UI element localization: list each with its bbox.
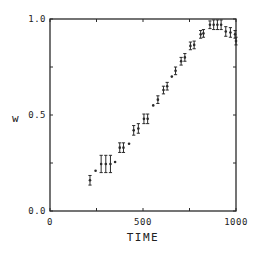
point-marker [174, 70, 177, 73]
point-marker [100, 163, 103, 166]
point-marker [209, 23, 212, 26]
point-marker [171, 75, 174, 78]
point-marker [224, 30, 227, 33]
point-marker [118, 146, 121, 149]
point-marker [202, 32, 205, 35]
point-marker [157, 98, 160, 101]
plot-border [50, 19, 236, 211]
point-marker [234, 33, 237, 36]
data-point [142, 114, 145, 124]
point-marker [122, 146, 125, 149]
point-marker [105, 163, 108, 166]
y-tick-label: 0.0 [28, 206, 46, 216]
data-point [146, 114, 149, 124]
x-tick-label: 1000 [224, 217, 248, 227]
point-marker [132, 129, 135, 132]
data-point [193, 41, 196, 49]
x-tick-label: 0 [47, 217, 53, 227]
point-marker [235, 40, 238, 43]
point-marker [199, 33, 202, 36]
data-point [220, 20, 223, 30]
y-axis-title: w [12, 112, 20, 125]
point-marker [137, 127, 140, 130]
point-marker [220, 23, 223, 26]
data-point [208, 21, 211, 29]
x-axis-title: TIME [127, 231, 160, 244]
data-point [212, 20, 215, 30]
point-marker [143, 118, 146, 121]
data-point [224, 27, 227, 37]
data-point [166, 82, 169, 90]
point-marker [89, 179, 92, 182]
data-point [152, 104, 155, 107]
point-marker [212, 23, 215, 26]
data-point [229, 28, 232, 38]
data-point [202, 30, 205, 38]
point-marker [128, 143, 131, 146]
data-point [156, 96, 159, 104]
point-marker [109, 163, 112, 166]
data-point [118, 143, 121, 153]
data-point [88, 175, 91, 185]
point-marker [94, 169, 97, 172]
data-point [189, 42, 192, 50]
point-marker [216, 23, 219, 26]
data-point [114, 161, 117, 164]
y-tick-label: 0.5 [28, 110, 46, 120]
plot-frame [50, 19, 236, 211]
data-point [128, 143, 131, 146]
point-marker [166, 85, 169, 88]
point-marker [189, 45, 192, 48]
point-marker [180, 60, 183, 63]
data-point [122, 143, 125, 153]
data-point [216, 20, 219, 30]
point-marker [184, 56, 187, 59]
point-marker [193, 44, 196, 47]
y-axis-ticks: 0.00.51.0 [28, 14, 236, 216]
data-point [137, 124, 140, 134]
data-point [199, 31, 202, 39]
data-point [100, 155, 103, 172]
point-marker [146, 118, 149, 121]
x-tick-label: 500 [134, 217, 152, 227]
data-point [94, 169, 97, 172]
y-tick-label: 1.0 [28, 14, 46, 24]
data-point [171, 75, 174, 78]
data-point [104, 155, 107, 172]
point-marker [229, 31, 232, 34]
point-marker [162, 89, 165, 92]
data-point [109, 155, 112, 172]
data-point [183, 54, 186, 62]
data-point [162, 86, 165, 94]
data-point [174, 67, 177, 75]
point-marker [152, 104, 155, 107]
chart: 05001000 0.00.51.0 TIME w [0, 0, 254, 253]
data-point [132, 126, 135, 136]
point-marker [114, 161, 117, 164]
data-points [88, 20, 237, 185]
data-point [180, 57, 183, 65]
